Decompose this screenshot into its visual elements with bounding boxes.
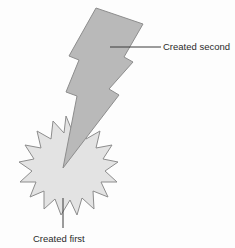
lightning-bolt-shape[interactable] xyxy=(63,8,143,168)
starburst-shape[interactable] xyxy=(19,116,118,215)
callout-second-label: Created second xyxy=(163,41,230,52)
shape-layering-diagram: Created second Created first xyxy=(0,0,235,248)
callout-first-label: Created first xyxy=(33,233,85,244)
diagram-canvas: Created second Created first xyxy=(0,0,235,248)
